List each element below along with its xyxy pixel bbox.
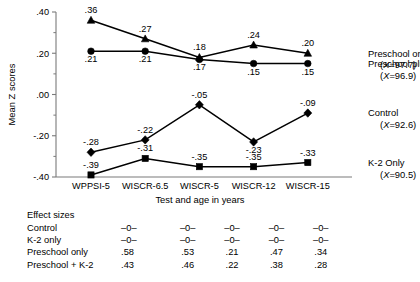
data-point-label: .15 [301,67,314,77]
effect-size-value: –0– [117,222,165,234]
effect-size-value: .58 [117,246,165,258]
y-tick-label: -.40 [33,172,49,182]
data-point-label: -.39 [83,160,99,170]
data-point-diamond[interactable] [195,101,203,109]
y-tick-label: .40 [36,7,49,17]
data-point-label: -.31 [137,143,153,153]
data-point-diamond[interactable] [87,148,95,156]
data-point-label: .15 [247,67,260,77]
data-point-label: .21 [139,54,152,64]
series-line [91,105,308,152]
effect-size-value: –0– [210,234,254,246]
data-point-label: -.22 [137,125,153,135]
data-point-label: .20 [301,38,314,48]
effect-sizes-table: Control–0––0––0––0––0–K-2 only–0––0––0––… [27,222,343,271]
effect-size-value: .38 [254,259,298,271]
effect-size-value: –0– [165,234,209,246]
effect-size-value: –0– [299,222,343,234]
data-point-label: .18 [193,42,206,52]
data-point-square[interactable] [251,164,257,170]
legend-series-mean: (X=96.9) [380,70,416,81]
series-group: -.28-.22-.05-.23-.09 [83,90,316,157]
data-point-square[interactable] [142,155,148,161]
x-tick-label: WISCR-12 [232,181,276,191]
effect-size-value: –0– [254,234,298,246]
effect-size-value: –0– [210,222,254,234]
x-tick-label: WISCR-5 [180,181,219,191]
effect-size-row: Preschool only.58.53.21.47.34 [27,246,343,258]
effect-size-row-label: Preschool + K-2 [27,259,117,271]
y-tick-label: -.20 [33,131,49,141]
effect-size-value: –0– [254,222,298,234]
data-point-triangle[interactable] [250,41,258,48]
effect-size-value: .22 [210,259,254,271]
data-point-diamond[interactable] [304,109,312,117]
data-point-label: -.28 [83,137,99,147]
effect-sizes-block: Effect sizes Control–0––0––0––0––0–K-2 o… [27,209,412,271]
line-chart: .40.20.00-.20-.40WPPSI-5WISCR-6.5WISCR-5… [0,0,420,205]
data-point-label: .17 [193,62,206,72]
data-point-label: -.35 [191,152,207,162]
data-point-square[interactable] [88,172,94,178]
effect-size-value: –0– [165,222,209,234]
effect-size-row: Preschool + K-2.43.46.22.38.28 [27,259,343,271]
x-tick-label: WISCR-6.5 [122,181,168,191]
effect-size-value: .28 [299,259,343,271]
effect-size-value: –0– [117,234,165,246]
legend-series-name: Control [368,107,398,118]
legend-series-mean: (X=92.6) [380,119,416,130]
data-point-label: .36 [85,5,98,15]
legend-entry: Control(X=92.6) [368,107,416,130]
effect-size-value: –0– [299,234,343,246]
effect-size-value: .46 [165,259,209,271]
x-tick-label: WPPSI-5 [72,181,110,191]
legend-series-name: K-2 Only [368,157,405,168]
data-point-square[interactable] [305,159,311,165]
effect-size-row: Control–0––0––0––0––0– [27,222,343,234]
legend-series-mean: (X=90.5) [380,169,416,180]
effect-size-value: .47 [254,246,298,258]
series-group: -.39-.31-.35-.35-.33 [83,143,316,178]
data-point-square[interactable] [196,164,202,170]
effect-size-row: K-2 only–0––0––0––0––0– [27,234,343,246]
x-axis-title: Test and age in years [155,194,244,205]
data-point-label: -.33 [300,148,316,158]
legend-series-name: Preschool plus K-2 [368,58,420,69]
data-point-label: .21 [85,54,98,64]
effect-sizes-title: Effect sizes [27,209,412,221]
x-tick-label: WISCR-15 [286,181,330,191]
data-point-label: -.05 [191,90,207,100]
figure-container: .40.20.00-.20-.40WPPSI-5WISCR-6.5WISCR-5… [0,0,420,282]
data-point-label: -.35 [246,152,262,162]
plot-area: .40.20.00-.20-.40WPPSI-5WISCR-6.5WISCR-5… [0,0,420,205]
data-point-label: -.09 [300,98,316,108]
effect-size-row-label: Control [27,222,117,234]
legend-entry: K-2 Only(X=90.5) [368,157,416,180]
legend-entry: Preschool plus K-2(X=96.9) [368,58,420,81]
series-group: .36.27.18.24.20 [85,5,315,60]
y-axis-title: Mean Z scores [6,63,17,125]
effect-size-value: .34 [299,246,343,258]
y-tick-label: .20 [36,49,49,59]
data-point-label: .24 [247,30,260,40]
effect-size-row-label: K-2 only [27,234,117,246]
effect-size-value: .21 [210,246,254,258]
y-tick-label: .00 [36,90,49,100]
effect-size-value: .43 [117,259,165,271]
effect-size-row-label: Preschool only [27,246,117,258]
effect-size-value: .53 [165,246,209,258]
data-point-label: .27 [139,24,152,34]
data-point-triangle[interactable] [87,16,95,23]
